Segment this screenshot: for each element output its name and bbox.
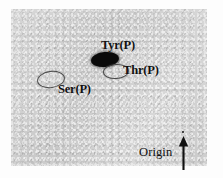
- label-threonine-phosphate: Thr(P): [123, 64, 159, 77]
- phosphoamino-acid-autoradiograph: Tyr(P) Thr(P) Ser(P) Origin: [0, 0, 223, 178]
- origin-arrow-icon: [176, 134, 191, 170]
- label-tyrosine-phosphate: Tyr(P): [101, 39, 135, 52]
- label-serine-phosphate: Ser(P): [58, 83, 91, 96]
- label-origin: Origin: [139, 146, 172, 159]
